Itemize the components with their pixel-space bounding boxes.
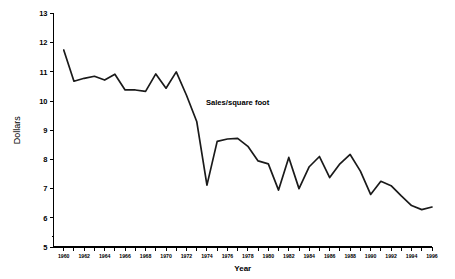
y-tick-label: 8	[43, 155, 47, 164]
data-series-sales-per-square-foot	[64, 50, 432, 210]
x-tick-label: 1984	[303, 253, 315, 259]
y-tick-label: 12	[39, 38, 47, 47]
x-tick-label: 1960	[58, 253, 70, 259]
x-tick-label: 1990	[365, 253, 377, 259]
x-tick-label: 1982	[283, 253, 295, 259]
x-axis-tick-labels: 1960196219641966196819701972197419761978…	[58, 253, 438, 259]
y-tick-label: 10	[39, 97, 47, 106]
y-tick-label: 7	[43, 184, 47, 193]
x-tick-label: 1978	[242, 253, 254, 259]
x-tick-label: 1994	[406, 253, 418, 259]
y-tick-label: 9	[43, 126, 47, 135]
x-tick-label: 1980	[263, 253, 275, 259]
x-tick-label: 1968	[140, 253, 152, 259]
y-axis-tick-labels: 5678910111213	[39, 9, 47, 252]
y-tick-label: 11	[40, 68, 48, 77]
x-tick-label: 1970	[160, 253, 172, 259]
x-tick-label: 1992	[385, 253, 397, 259]
line-chart: 5678910111213 19601962196419661968197019…	[0, 0, 455, 279]
y-tick-label: 6	[43, 214, 47, 223]
series-annotation-label: Sales/square foot	[206, 98, 270, 107]
x-tick-label: 1988	[344, 253, 356, 259]
chart-container: 5678910111213 19601962196419661968197019…	[0, 0, 455, 279]
x-tick-label: 1996	[426, 253, 438, 259]
x-tick-label: 1974	[201, 253, 213, 259]
x-tick-label: 1976	[222, 253, 234, 259]
x-tick-label: 1972	[181, 253, 193, 259]
y-axis-title: Dollars	[12, 116, 22, 145]
x-axis-title: Year	[234, 264, 251, 273]
x-tick-label: 1986	[324, 253, 336, 259]
x-tick-label: 1962	[78, 253, 90, 259]
y-tick-label: 5	[43, 243, 47, 252]
x-tick-label: 1964	[99, 253, 111, 259]
y-tick-label: 13	[39, 9, 47, 18]
x-tick-label: 1966	[119, 253, 131, 259]
